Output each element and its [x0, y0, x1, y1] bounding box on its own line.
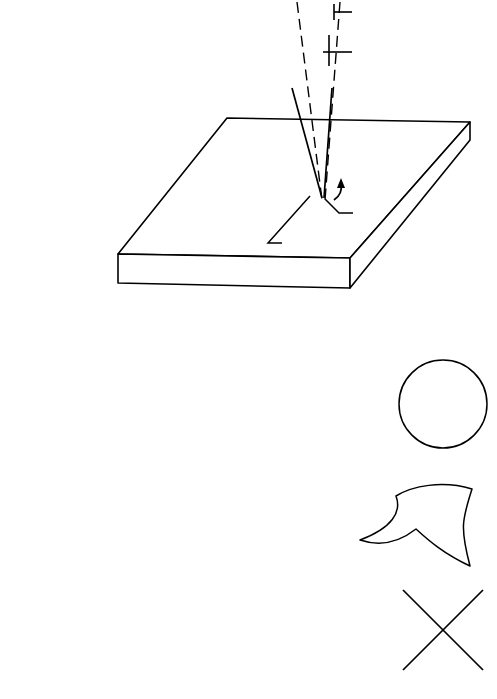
figure-artwork	[0, 0, 497, 699]
figure-page	[0, 0, 497, 699]
workpiece-block	[118, 118, 470, 288]
pattern-shape-crescent	[360, 485, 472, 566]
top-label-leaders	[323, 4, 352, 66]
pattern-shape-cross	[403, 590, 483, 670]
pattern-shape-circle	[399, 360, 487, 448]
plate-front-face	[118, 254, 350, 288]
